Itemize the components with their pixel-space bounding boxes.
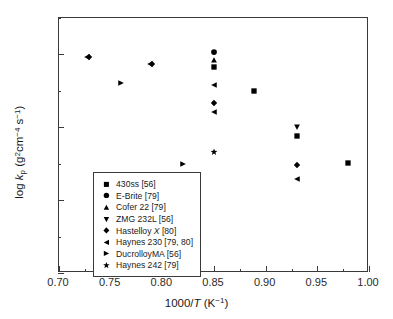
x-tick-label: 0.95 [306,276,327,288]
y-tick-major [58,127,64,128]
data-point [251,87,258,94]
legend-item-label: ZMG 232L [56] [114,214,173,224]
y-tick-major [58,54,64,55]
x-tick-minor [85,269,86,272]
data-point [210,63,217,70]
legend-item-label: Cofer 22 [79] [114,202,166,212]
triangle-down-marker-icon [99,216,114,223]
data-point [117,79,124,86]
data-point [210,48,217,55]
x-tick-major [59,266,60,272]
data-point [210,108,217,115]
y-tick-minor [58,91,61,92]
legend-item: Haynes 242 [79] [99,260,193,272]
star-marker-icon [99,262,114,269]
legend-item: ZMG 232L [56] [99,213,193,225]
legend-item-label: E-Brite [79] [114,191,159,201]
chart-legend: 430ss [56]E-Brite [79]Cofer 22 [79]ZMG 2… [93,172,201,277]
data-point [293,132,300,139]
chart-figure: log kp (g2cm−4 s−1) 430ss [56]E-Brite [7… [0,0,393,319]
data-point [293,124,300,131]
x-tick-label: 0.90 [254,276,275,288]
legend-item-label: 430ss [56] [114,179,156,189]
legend-item-label: Haynes 242 [79] [114,260,179,270]
diamond-marker-icon [99,227,114,234]
y-axis-title: log kp (g2cm−4 s−1) [13,52,27,252]
x-tick-minor [240,269,241,272]
legend-item: E-Brite [79] [99,190,193,202]
legend-item: DucrolloyMA [56] [99,248,193,260]
plot-area: 430ss [56]E-Brite [79]Cofer 22 [79]ZMG 2… [58,17,368,272]
data-point [345,159,352,166]
y-tick-minor [58,237,61,238]
legend-item: 430ss [56] [99,178,193,190]
data-point [210,57,217,64]
data-point [210,148,217,155]
x-tick-label: 1.00 [357,276,378,288]
x-axis-title: 1000/T (K−1) [0,296,393,309]
y-tick-major [58,273,64,274]
x-tick-major [317,266,318,272]
y-tick-minor [58,164,61,165]
legend-item-label: Hastelloy X [80] [114,226,176,236]
triangle-right-marker-icon [99,250,114,257]
y-tick-major [58,200,64,201]
x-tick-label: 0.70 [47,276,68,288]
x-tick-major [369,266,370,272]
data-point [146,60,153,67]
data-point [293,175,300,182]
data-point [210,81,217,88]
x-tick-minor [343,269,344,272]
x-tick-label: 0.75 [99,276,120,288]
y-tick-minor [58,18,61,19]
circle-marker-icon [99,192,114,199]
square-marker-icon [99,181,114,188]
data-point [293,162,300,169]
legend-item: Haynes 230 [79, 80] [99,236,193,248]
x-tick-major [266,266,267,272]
x-tick-label: 0.85 [202,276,223,288]
legend-item: Hastelloy X [80] [99,225,193,237]
data-point [210,100,217,107]
legend-item-label: DucrolloyMA [56] [114,249,181,259]
legend-item: Cofer 22 [79] [99,202,193,214]
x-tick-major [214,266,215,272]
triangle-up-marker-icon [99,204,114,211]
x-tick-minor [292,269,293,272]
data-point [179,160,186,167]
legend-item-label: Haynes 230 [79, 80] [114,237,193,247]
triangle-left-marker-icon [99,239,114,246]
x-tick-label: 0.80 [151,276,172,288]
data-point [83,53,90,60]
